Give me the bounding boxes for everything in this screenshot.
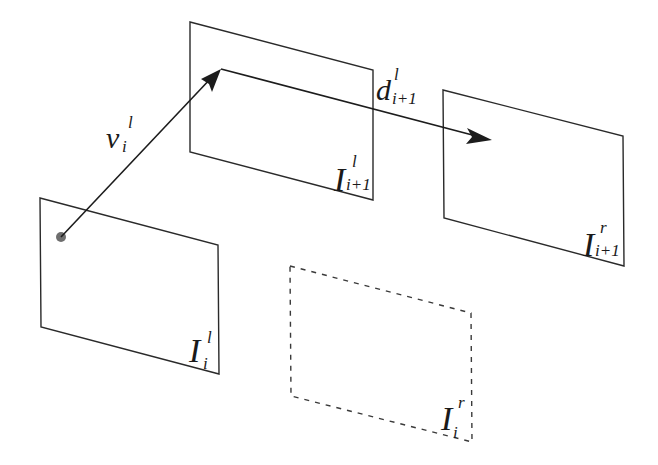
plane-label-sub: i+1	[595, 241, 620, 260]
plane-outline	[190, 22, 373, 200]
plane-label-sub: i+1	[346, 175, 371, 194]
plane-label-sup: r	[458, 393, 465, 412]
vector-v: v l i	[61, 69, 221, 237]
vector-v-label-main: v	[106, 121, 120, 154]
vector-v-line	[61, 76, 213, 237]
arrowhead-icon	[466, 128, 492, 144]
plane-label-sub: i	[453, 423, 458, 442]
plane-i-left: I l i	[40, 198, 219, 374]
plane-label-main: I	[188, 332, 202, 369]
plane-i-plus-1-left: I l i+1	[190, 22, 373, 200]
plane-label-sup: r	[600, 218, 607, 237]
plane-outline	[443, 90, 624, 266]
vector-d-label-main: d	[376, 73, 392, 106]
stereo-frame-diagram: I l i+1 I r i+1 I l i I r i v l i d l i+	[0, 0, 658, 465]
vector-d-label-sub: i+1	[392, 89, 417, 108]
plane-label-sub: i	[203, 354, 208, 373]
plane-label-sup: l	[207, 328, 212, 347]
vector-d: d l i+1	[221, 65, 492, 144]
vector-v-label-sub: i	[122, 137, 127, 156]
vector-d-line	[221, 69, 480, 137]
vector-d-label-sup: l	[394, 65, 399, 84]
plane-i-plus-1-right: I r i+1	[443, 90, 624, 266]
vector-v-label-sup: l	[128, 113, 133, 132]
plane-label-main: I	[333, 161, 347, 198]
plane-label-main: I	[440, 400, 454, 437]
arrowhead-icon	[201, 69, 221, 92]
plane-label-sup: l	[352, 152, 357, 171]
plane-label-main: I	[582, 226, 596, 263]
plane-i-right: I r i	[290, 266, 472, 442]
